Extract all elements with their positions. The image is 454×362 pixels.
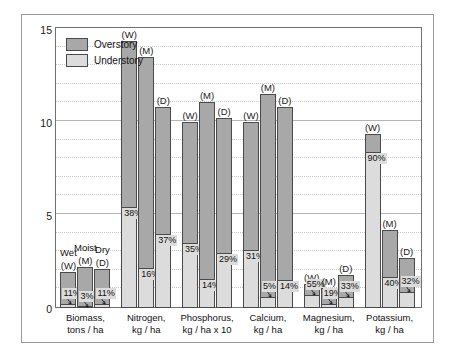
x-label-potassium: Potassium,kg / ha — [359, 312, 420, 335]
bar-site-code: (D) — [157, 95, 170, 106]
x-label-magnesium: Magnesium,kg / ha — [298, 312, 359, 335]
understory-segment — [321, 304, 337, 308]
bar-group-calcium: (W)31%(M)5%(D)14% — [243, 27, 293, 308]
bar-site-code: (D) — [278, 95, 291, 106]
legend-swatch-overstory — [66, 38, 88, 51]
bar-biomass-wet[interactable]: (W)11% — [60, 272, 76, 308]
y-axis-tick-10: 10 — [21, 117, 52, 129]
bar-biomass-dry[interactable]: (D)11% — [94, 269, 110, 308]
bar-phosphorus-moist[interactable]: (M)14% — [199, 102, 215, 308]
x-label-name: Calcium, — [238, 312, 299, 324]
y-axis-tick-5: 5 — [21, 210, 52, 222]
legend-swatch-understory — [66, 54, 88, 67]
y-axis-tick-0: 0 — [21, 303, 52, 315]
understory-percent-label: 33% — [340, 281, 360, 292]
bar-site-code: (D) — [339, 263, 352, 274]
bar-site-code: (M) — [322, 276, 336, 287]
bar-magnesium-dry[interactable]: (D)33% — [338, 275, 354, 308]
bar-site-code: (W) — [243, 110, 258, 121]
bar-potassium-moist[interactable]: (M)40% — [382, 230, 398, 308]
understory-percent-label: 32% — [401, 276, 421, 287]
bar-biomass-moist[interactable]: (M)3% — [77, 267, 93, 308]
understory-segment — [338, 297, 354, 308]
x-label-calcium: Calcium,kg / ha — [238, 312, 299, 335]
x-label-name: Biomass, — [55, 312, 116, 324]
bar-site-code: (D) — [217, 106, 230, 117]
bar-site-code: (M) — [382, 218, 396, 229]
understory-percent-label: 11% — [96, 288, 115, 299]
understory-segment — [94, 304, 110, 308]
site-name-annotation-dry: Dry — [95, 244, 110, 255]
x-label-nitrogen: Nitrogen,kg / ha — [116, 312, 177, 335]
bar-nitrogen-dry[interactable]: (D)37% — [155, 107, 171, 308]
understory-percent-label: 14% — [279, 281, 299, 292]
chart-legend: OverstoryUnderstory — [66, 37, 162, 70]
x-label-biomass: Biomass,tons / ha — [55, 312, 116, 335]
bar-nitrogen-moist[interactable]: (M)16% — [138, 57, 154, 308]
x-label-unit: kg / ha — [238, 324, 299, 336]
understory-segment — [121, 207, 137, 308]
x-label-name: Phosphorus, — [177, 312, 238, 324]
bar-potassium-dry[interactable]: (D)32% — [399, 258, 415, 308]
understory-segment — [260, 297, 276, 308]
bar-site-code: (W) — [365, 122, 380, 133]
legend-label: Overstory — [94, 39, 137, 50]
bar-group-potassium: (W)90%(M)40%(D)32% — [365, 27, 415, 308]
understory-segment — [60, 304, 76, 308]
chart-figure: 051015 (W)11%(M)3%(D)11%(W)38%(M)16%(D)3… — [0, 0, 454, 362]
bar-phosphorus-wet[interactable]: (W)35% — [182, 122, 198, 308]
bar-nitrogen-wet[interactable]: (W)38% — [121, 41, 137, 308]
bar-site-code: (M) — [200, 90, 214, 101]
bar-site-code: (M) — [261, 82, 275, 93]
bar-site-code: (W) — [182, 110, 197, 121]
x-label-unit: tons / ha — [55, 324, 116, 336]
y-axis-tick-labels: 051015 — [21, 27, 52, 308]
bar-site-code: (D) — [96, 257, 109, 268]
understory-percent-label: 29% — [218, 254, 238, 265]
bar-potassium-wet[interactable]: (W)90% — [365, 134, 381, 308]
understory-percent-label: 5% — [262, 281, 277, 292]
x-label-unit: kg / ha — [359, 324, 420, 336]
understory-segment — [77, 306, 93, 308]
x-label-phosphorus: Phosphorus,kg / ha x 10 — [177, 312, 238, 335]
bar-group-magnesium: (W)55%(M)19%(D)33% — [304, 27, 354, 308]
x-label-unit: kg / ha — [116, 324, 177, 336]
understory-segment — [365, 152, 381, 308]
x-axis-category-labels: Biomass,tons / haNitrogen,kg / haPhospho… — [55, 312, 422, 346]
bar-calcium-dry[interactable]: (D)14% — [277, 107, 293, 308]
understory-percent-label: 37% — [157, 235, 177, 246]
x-label-name: Potassium, — [359, 312, 420, 324]
understory-segment — [399, 292, 415, 308]
bar-magnesium-wet[interactable]: (W)55% — [304, 284, 320, 308]
y-axis-tick-15: 15 — [21, 24, 52, 36]
understory-percent-label: 90% — [367, 153, 387, 164]
legend-item-overstory[interactable]: Overstory — [66, 37, 137, 52]
x-label-name: Magnesium, — [298, 312, 359, 324]
x-label-unit: kg / ha — [298, 324, 359, 336]
bar-phosphorus-dry[interactable]: (D)29% — [216, 118, 232, 308]
x-label-name: Nitrogen, — [116, 312, 177, 324]
site-name-annotation-moist: Moist — [74, 242, 97, 253]
bar-calcium-moist[interactable]: (M)5% — [260, 94, 276, 308]
x-label-unit: kg / ha x 10 — [177, 324, 238, 336]
bar-site-code: (D) — [400, 246, 413, 257]
legend-label: Understory — [94, 55, 143, 66]
bar-magnesium-moist[interactable]: (M)19% — [321, 288, 337, 308]
bar-site-code: (W) — [61, 260, 76, 271]
understory-percent-label: 3% — [79, 291, 94, 302]
bar-calcium-wet[interactable]: (W)31% — [243, 122, 259, 308]
understory-segment — [304, 295, 320, 308]
bar-group-phosphorus: (W)35%(M)14%(D)29% — [182, 27, 232, 308]
bar-site-code: (M) — [78, 255, 92, 266]
legend-item-understory[interactable]: Understory — [66, 53, 143, 68]
